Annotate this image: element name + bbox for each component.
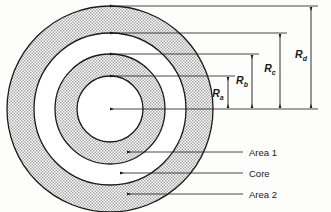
diagram-root: Ra Rb Rc Rd Area 1 Core Area 2 bbox=[0, 0, 331, 212]
dimension-labels: Ra Rb Rc Rd bbox=[212, 48, 307, 101]
ring-cross-section-figure: Ra Rb Rc Rd Area 1 Core Area 2 bbox=[0, 0, 331, 212]
dimension-label-rd: Rd bbox=[295, 48, 308, 62]
dimension-subscript-rd: d bbox=[303, 55, 308, 62]
callout-label-core: Core bbox=[249, 168, 270, 179]
callout-label-area1: Area 1 bbox=[249, 147, 277, 158]
dimension-subscript-ra: a bbox=[220, 94, 224, 101]
callout-labels: Area 1 Core Area 2 bbox=[249, 147, 277, 200]
dimension-label-rb: Rb bbox=[236, 74, 249, 88]
dimension-subscript-rb: b bbox=[244, 81, 249, 88]
callout-label-area2: Area 2 bbox=[249, 189, 277, 200]
dimension-label-ra: Ra bbox=[212, 87, 224, 101]
dimension-subscript-rc: c bbox=[272, 69, 276, 76]
dimension-label-rc: Rc bbox=[264, 62, 276, 76]
